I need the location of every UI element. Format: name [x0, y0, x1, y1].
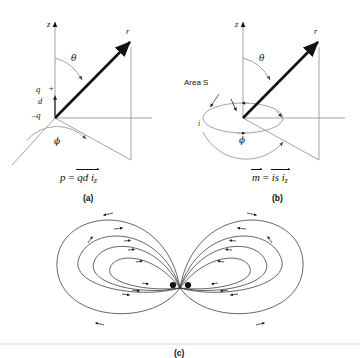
phi-label-b: ϕ	[239, 136, 245, 145]
theta-arc-b	[243, 58, 270, 80]
panel-tag-a: (a)	[83, 194, 93, 203]
theta-label-a: θ	[71, 54, 76, 63]
charge-lower-label-a: –q	[32, 111, 41, 120]
phi-label-a: ϕ	[54, 137, 60, 146]
formula-a-rhs-sub: z	[94, 176, 97, 185]
dipole-figure	[0, 0, 360, 358]
normal-arrow-b	[231, 99, 236, 110]
formula-b-lhs: m	[252, 172, 260, 183]
dipole-pole-left	[170, 282, 176, 288]
fl-arrow-l10	[104, 213, 113, 215]
fl-arrow-r8	[268, 237, 272, 243]
formula-b-rhs-sub: z	[285, 176, 288, 185]
fl-arrow-l3	[136, 261, 142, 262]
r-vector-a	[55, 42, 130, 118]
r-vector-b	[243, 42, 318, 118]
theta-arc-a	[55, 58, 82, 80]
fl-arrow-l2	[128, 249, 134, 250]
fl-arrow-r3	[218, 261, 224, 262]
fl-arrow-l5	[132, 290, 139, 291]
separation-label-a: d	[38, 97, 42, 106]
field-line-left-3	[110, 258, 180, 289]
formula-b: m = is iz	[252, 172, 288, 185]
fl-arrow-l1	[124, 240, 130, 241]
dipole-pole-right	[185, 282, 191, 288]
panel-tag-c: (c)	[174, 349, 184, 358]
formula-b-eq: =	[263, 171, 269, 183]
formula-a-rhs-main: qd i	[77, 171, 94, 183]
z-axis-label-b: z	[235, 20, 238, 29]
fl-arrow-r1	[230, 240, 236, 241]
fl-arrow-r10	[247, 213, 256, 215]
panel-b-diagram	[203, 22, 345, 160]
formula-a-rhs: qd iz	[77, 172, 97, 185]
fl-arrow-r9	[256, 323, 264, 325]
fl-arrow-l9	[96, 323, 104, 325]
formula-a-eq: =	[68, 171, 74, 183]
loop-arrow-right-b	[276, 111, 281, 116]
r-vector-label-a: r	[126, 27, 129, 36]
fl-arrow-r7	[238, 228, 246, 229]
r-vector-label-b: r	[314, 27, 317, 36]
area-leader-b	[211, 94, 219, 106]
formula-b-rhs-main: is i	[272, 171, 285, 183]
panel-tag-b: (b)	[272, 194, 283, 203]
field-line-left-4	[57, 220, 180, 314]
fl-arrow-l8	[88, 237, 92, 243]
charge-upper-label-a: q	[36, 85, 40, 94]
projection-line-b	[243, 118, 319, 160]
projection-line-a	[55, 118, 131, 160]
panel-c-field-lines	[57, 213, 303, 325]
field-line-right-4	[180, 220, 303, 314]
formula-b-rhs: is iz	[272, 172, 288, 185]
area-label-b: Area S	[184, 79, 208, 87]
fl-arrow-r4	[212, 283, 218, 284]
fl-arrow-r6	[231, 294, 238, 295]
fl-arrow-l4	[142, 283, 148, 284]
fl-arrow-r5	[221, 290, 228, 291]
ground-axis-a	[12, 118, 55, 165]
fl-arrow-l6	[122, 294, 129, 295]
panel-a-diagram	[12, 22, 152, 165]
fl-arrow-r2	[226, 249, 232, 250]
fl-arrow-l7	[114, 228, 122, 229]
formula-a-lhs: p	[60, 171, 66, 183]
current-label-b: i	[198, 120, 200, 128]
theta-label-b: θ	[259, 54, 264, 63]
formula-a: p = qd iz	[60, 172, 97, 185]
charge-upper-sign-a: +	[49, 85, 54, 93]
z-axis-label-a: z	[47, 20, 50, 29]
